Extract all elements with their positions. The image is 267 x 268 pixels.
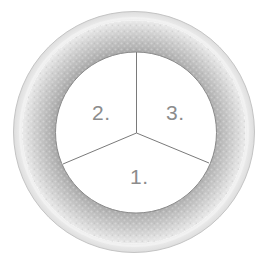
plate-diagram: 2. 3. 1.	[0, 0, 267, 268]
sector-label-3: 3.	[166, 102, 185, 123]
sector-label-1: 1.	[130, 166, 149, 187]
plate-graphic	[0, 0, 267, 268]
sector-label-2: 2.	[92, 102, 111, 123]
